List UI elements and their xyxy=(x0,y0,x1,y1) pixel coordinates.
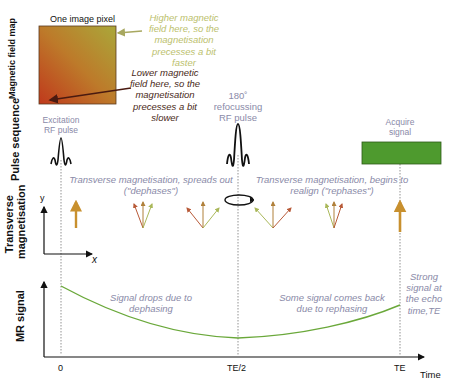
excitation-label: Excitation RF pulse xyxy=(36,115,86,135)
refocus-pulse-icon xyxy=(227,124,249,166)
signal-drop-note: Signal drops due to dephasing xyxy=(108,292,194,314)
y-axis-label: y xyxy=(40,193,45,204)
dephase-note: Transverse magnetisation, spreads out ("… xyxy=(66,174,236,196)
spin-echo-diagram: One image pixel Magnetic field map Highe… xyxy=(0,0,456,389)
time-axis-label: Time xyxy=(420,369,441,380)
tick-te2: TE/2 xyxy=(227,363,246,374)
tick-te: TE xyxy=(394,363,406,374)
mr-signal-row-label: MR signal xyxy=(14,302,26,342)
field-map-axis-label: Magnetic field map xyxy=(8,29,18,99)
tick-0: 0 xyxy=(58,363,63,374)
strong-signal-note: Strong signal at the echo time,TE xyxy=(400,271,448,316)
x-axis-label: x xyxy=(92,254,97,266)
acquire-signal-block xyxy=(362,142,441,164)
transverse-row-label: Transverse magnetisation xyxy=(3,189,27,259)
rotation-icon xyxy=(225,195,253,205)
pulse-sequence-row-label: Pulse sequence xyxy=(9,121,21,181)
vectors-dephasing-2 xyxy=(187,202,219,228)
signal-back-note: Some signal comes back due to rephasing xyxy=(278,292,386,314)
vectors-dephasing-1 xyxy=(134,202,152,228)
acquire-label: Acquire signal xyxy=(375,117,425,137)
lower-field-note: Lower magnetic field here, so the magnet… xyxy=(128,67,202,123)
vectors-rephasing-2 xyxy=(326,202,342,228)
higher-field-note: Higher magnetic field here, so the magne… xyxy=(139,12,229,68)
vectors-rephasing-1 xyxy=(255,202,291,228)
refocus-label: 180˚ refocussing RF pulse xyxy=(205,90,271,124)
pixel-label: One image pixel xyxy=(50,14,115,25)
rephase-note: Transverse magnetisation, begins to real… xyxy=(252,174,412,196)
